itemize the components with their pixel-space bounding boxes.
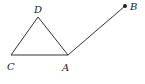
label-b: B — [129, 1, 137, 12]
label-d: D — [33, 4, 42, 15]
label-c: C — [7, 61, 15, 72]
geometry-diagram: D C A B — [0, 0, 145, 84]
segment-ab — [68, 6, 125, 55]
segment-cd — [11, 17, 38, 55]
label-a: A — [61, 62, 69, 73]
segment-da — [38, 17, 68, 55]
point-b-dot — [123, 4, 127, 8]
